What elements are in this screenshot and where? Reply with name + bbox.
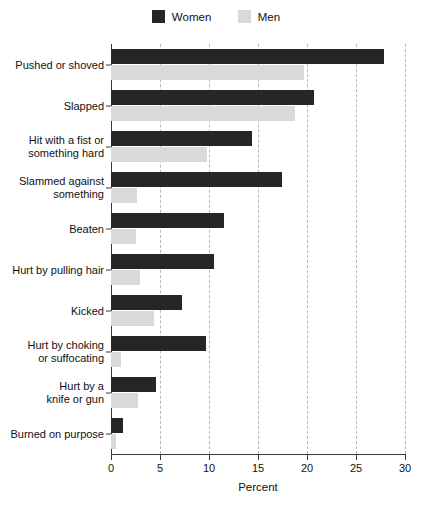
bar-men <box>111 106 295 121</box>
bar-women <box>111 131 252 146</box>
bar-men <box>111 229 136 244</box>
bar-men <box>111 188 137 203</box>
category-axis-labels: Pushed or shovedSlappedHit with a fist o… <box>0 44 104 454</box>
bar-group <box>111 131 405 162</box>
bar-group <box>111 418 405 449</box>
bar-men <box>111 270 140 285</box>
category-label: Beaten <box>0 222 104 235</box>
category-label: Slammed againstsomething <box>0 175 104 201</box>
legend-item-women: Women <box>152 10 212 23</box>
bar-women <box>111 172 282 187</box>
bar-women <box>111 418 123 433</box>
legend-swatch-men <box>238 10 251 23</box>
bar-series-container <box>111 44 405 454</box>
bar-group <box>111 90 405 121</box>
bar-group <box>111 172 405 203</box>
category-label: Hurt by aknife or gun <box>0 380 104 406</box>
category-label: Hurt by pulling hair <box>0 263 104 276</box>
x-tick-10 <box>209 454 210 460</box>
x-tick-0 <box>111 454 112 460</box>
category-label: Hurt by chokingor suffocating <box>0 339 104 365</box>
bar-women <box>111 90 314 105</box>
legend-label-men: Men <box>258 11 281 23</box>
bar-men <box>111 311 154 326</box>
bar-men <box>111 65 304 80</box>
bar-group <box>111 295 405 326</box>
bar-group <box>111 377 405 408</box>
bar-women <box>111 254 214 269</box>
bar-women <box>111 295 182 310</box>
category-label: Hit with a fist orsomething hard <box>0 134 104 160</box>
category-label: Slapped <box>0 99 104 112</box>
x-tick-label: 10 <box>203 462 215 474</box>
bar-group <box>111 254 405 285</box>
chart-legend: Women Men <box>0 10 432 23</box>
legend-swatch-women <box>152 10 165 23</box>
x-tick-25 <box>356 454 357 460</box>
x-tick-5 <box>160 454 161 460</box>
x-tick-label: 30 <box>399 462 411 474</box>
x-tick-label: 0 <box>108 462 114 474</box>
x-tick-30 <box>405 454 406 460</box>
bar-women <box>111 377 156 392</box>
x-tick-label: 20 <box>301 462 313 474</box>
bar-men <box>111 147 207 162</box>
category-label: Pushed or shoved <box>0 58 104 71</box>
bar-group <box>111 49 405 80</box>
bar-women <box>111 336 206 351</box>
legend-label-women: Women <box>172 11 212 23</box>
bar-group <box>111 336 405 367</box>
category-label: Kicked <box>0 304 104 317</box>
bar-group <box>111 213 405 244</box>
x-axis-title: Percent <box>111 481 405 493</box>
bar-men <box>111 352 121 367</box>
bar-men <box>111 393 138 408</box>
bar-women <box>111 49 384 64</box>
x-tick-20 <box>307 454 308 460</box>
bar-men <box>111 434 116 449</box>
plot-area <box>111 44 405 454</box>
x-tick-label: 15 <box>252 462 264 474</box>
x-tick-15 <box>258 454 259 460</box>
bar-chart: Women Men Pushed or shovedSlappedHit wit… <box>0 0 432 506</box>
legend-item-men: Men <box>238 10 281 23</box>
x-tick-label: 25 <box>350 462 362 474</box>
gridline-30 <box>405 44 406 454</box>
x-tick-label: 5 <box>157 462 163 474</box>
bar-women <box>111 213 224 228</box>
category-label: Burned on purpose <box>0 427 104 440</box>
